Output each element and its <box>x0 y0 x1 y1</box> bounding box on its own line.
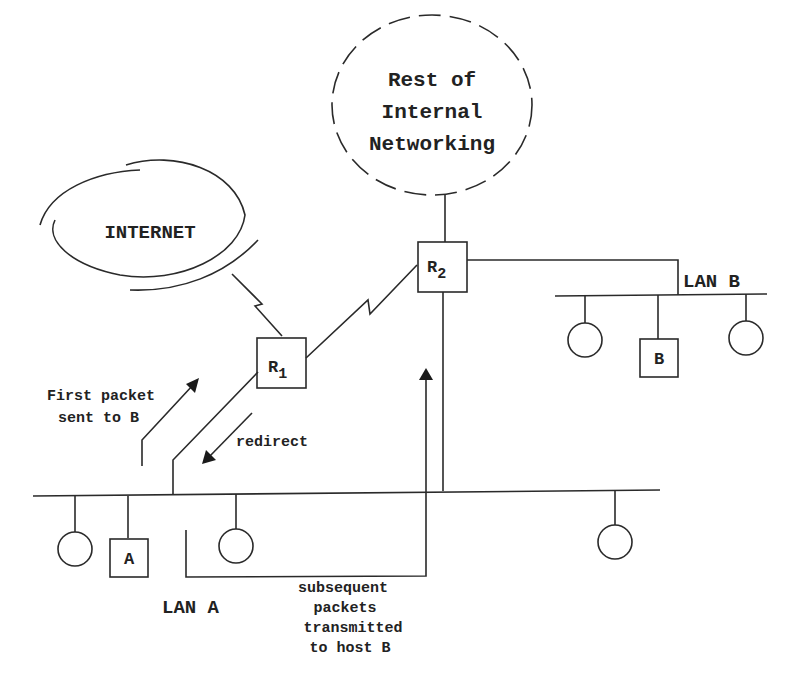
lan-b-bus <box>555 294 767 296</box>
internal-cloud-line-1: Rest of <box>388 69 476 92</box>
link-r2-lanb <box>467 260 678 295</box>
lan-a-host-circle-4 <box>598 525 632 559</box>
subsequent-line-1: subsequent <box>298 580 388 597</box>
lan-a-label: LAN A <box>162 597 220 619</box>
link-r1-r2 <box>306 265 417 358</box>
host-a-label: A <box>124 550 135 569</box>
subsequent-line-4: to host B <box>309 640 390 657</box>
network-redirect-diagram: Rest of Internal Networking INTERNET R1 … <box>0 0 799 695</box>
lan-a-bus <box>33 490 660 496</box>
subsequent-line-3: transmitted <box>303 620 402 637</box>
router-r2: R2 <box>418 242 467 292</box>
internal-cloud-line-2: Internal <box>382 101 483 124</box>
lan-b-label: LAN B <box>683 271 740 293</box>
host-b-label: B <box>654 350 664 369</box>
arrowhead-up-icon <box>419 368 433 380</box>
lan-b-host-circle-1 <box>568 323 602 357</box>
internal-cloud-line-3: Networking <box>369 133 495 156</box>
subsequent-line-2: packets <box>313 600 376 617</box>
link-internet-r1 <box>232 274 282 336</box>
router-r1: R1 <box>257 338 306 388</box>
internal-network-cloud: Rest of Internal Networking <box>332 15 532 195</box>
lan-b-host-circle-3 <box>729 321 763 355</box>
lan-a-host-circle-1 <box>58 532 92 566</box>
first-packet-line-1: First packet <box>47 388 155 405</box>
internet-cloud: INTERNET <box>40 160 258 290</box>
internet-label: INTERNET <box>104 222 195 244</box>
first-packet-line-2: sent to B <box>58 410 139 427</box>
lan-a-host-circle-3 <box>219 529 253 563</box>
redirect-label: redirect <box>236 434 308 451</box>
